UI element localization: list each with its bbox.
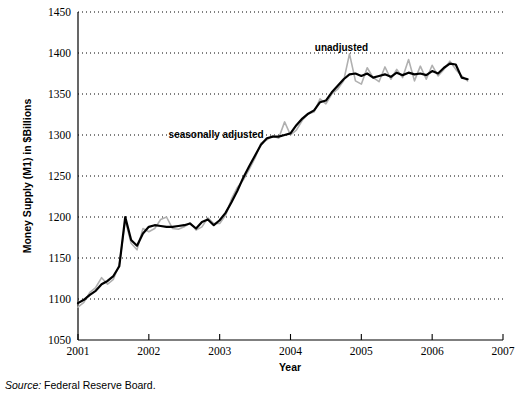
y-tick-label: 1400 (48, 47, 71, 59)
x-axis-tick-labels: 2001200220032004200520062007 (67, 345, 515, 357)
series-line-seasonally-adjusted (78, 64, 468, 303)
x-tick-label: 2004 (279, 345, 302, 357)
y-axis-tick-labels: 105011001150120012501300135014001450 (48, 6, 71, 346)
y-tick-label: 1450 (48, 6, 71, 18)
x-axis-ticks (78, 334, 503, 340)
y-tick-label: 1100 (48, 293, 71, 305)
source-label: Source: (5, 379, 41, 391)
x-tick-label: 2001 (67, 345, 90, 357)
source-note: Source: Federal Reserve Board. (5, 379, 156, 391)
y-tick-label: 1250 (48, 170, 71, 182)
y-axis-title: Money Supply (M1) in $Billions (21, 99, 33, 254)
x-tick-label: 2007 (492, 345, 515, 357)
x-tick-label: 2003 (208, 345, 231, 357)
x-tick-label: 2006 (421, 345, 444, 357)
x-tick-label: 2005 (350, 345, 373, 357)
figure-money-supply-chart: 105011001150120012501300135014001450 200… (0, 0, 520, 401)
source-text: Federal Reserve Board. (44, 379, 155, 391)
chart-canvas: 105011001150120012501300135014001450 200… (0, 0, 520, 401)
annotation-unadjusted: unadjusted (315, 42, 368, 53)
gridlines (78, 12, 503, 299)
series-line-unadjusted (78, 54, 468, 307)
y-tick-label: 1300 (48, 129, 71, 141)
y-tick-label: 1350 (48, 88, 71, 100)
x-axis-title: Year (279, 361, 301, 373)
y-tick-label: 1200 (48, 211, 71, 223)
x-tick-label: 2002 (137, 345, 160, 357)
y-tick-label: 1150 (48, 252, 71, 264)
annotation-seasonally-adjusted: seasonally adjusted (169, 129, 264, 140)
